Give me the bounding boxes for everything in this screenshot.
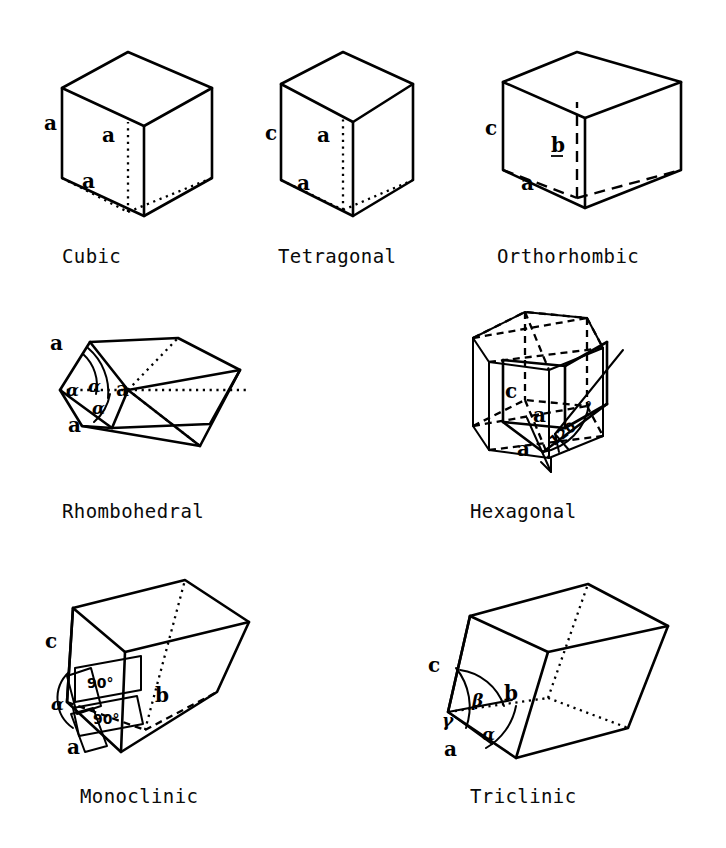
monoclinic-diagram: c b a 90° 90° α — [45, 540, 295, 765]
orthorhombic-label-c: c — [485, 116, 497, 140]
triclinic-diagram: c b a β γ α — [420, 540, 685, 765]
orthorhombic-label-a: a — [521, 171, 534, 195]
cubic-front-top-edge — [62, 88, 212, 126]
caption-monoclinic: Monoclinic — [80, 785, 198, 807]
rhombohedral-label-a-right: a — [116, 377, 129, 401]
crystal-cell-hexagonal: c a a 120 ° — [455, 300, 655, 500]
monoclinic-label-a: a — [67, 735, 80, 759]
triclinic-label-c: c — [428, 653, 440, 677]
tetragonal-diagram: c a a — [265, 30, 455, 230]
monoclinic-label-90-lower: 90° — [93, 711, 119, 727]
tetragonal-label-c: c — [265, 121, 277, 145]
rhombohedral-front-diagonal — [128, 390, 200, 446]
crystal-cell-rhombohedral: a a a α α α — [50, 328, 270, 488]
triclinic-front-top-edge — [470, 616, 668, 652]
rhombohedral-outline — [60, 338, 240, 428]
rhombohedral-label-alpha-2: α — [88, 376, 101, 396]
crystal-systems-figure: a a a Cubic c a a Tetragonal c — [0, 0, 726, 848]
crystal-cell-triclinic: c b a β γ α — [420, 540, 685, 765]
hexagonal-top-diagonal — [473, 318, 587, 338]
rhombohedral-label-alpha-1: α — [66, 380, 79, 400]
triclinic-label-a: a — [444, 737, 457, 761]
cubic-diagram: a a a — [40, 30, 250, 230]
orthorhombic-diagram: c b a — [485, 30, 710, 230]
triclinic-label-gamma: γ — [442, 710, 454, 730]
rhombohedral-right-edge — [128, 370, 240, 390]
crystal-cell-tetragonal: c a a — [265, 30, 455, 230]
hexagonal-label-degree-symbol: ° — [585, 399, 592, 415]
triclinic-left-vertical-edge — [448, 616, 470, 712]
rhombohedral-label-alpha-3: α — [92, 398, 105, 418]
triclinic-hidden-edge — [548, 584, 588, 698]
triclinic-front-vertical-edge — [516, 652, 548, 758]
crystal-cell-monoclinic: c b a 90° 90° α — [45, 540, 295, 765]
monoclinic-hidden-edge — [145, 580, 185, 730]
caption-hexagonal: Hexagonal — [470, 500, 577, 522]
hexagonal-label-c: c — [505, 379, 517, 403]
caption-triclinic: Triclinic — [470, 785, 577, 807]
hexagonal-top-outline — [473, 312, 603, 348]
tetragonal-front-top-edge — [281, 84, 413, 122]
caption-orthorhombic: Orthorhombic — [497, 245, 639, 267]
tetragonal-label-a-depth: a — [317, 123, 330, 147]
caption-tetragonal: Tetragonal — [278, 245, 396, 267]
triclinic-label-beta: β — [471, 690, 483, 710]
monoclinic-front-vertical-edge — [121, 652, 125, 752]
cubic-hidden-edge — [128, 178, 212, 212]
caption-cubic: Cubic — [62, 245, 121, 267]
monoclinic-label-90-upper: 90° — [87, 675, 113, 691]
crystal-cell-orthorhombic: c b a — [485, 30, 710, 230]
monoclinic-label-alpha: α — [51, 694, 64, 714]
rhombohedral-label-a-bottom: a — [68, 413, 81, 437]
rhombohedral-diagram: a a a α α α — [50, 328, 270, 488]
triclinic-hidden-edge — [548, 698, 628, 728]
hexagonal-label-a-1: a — [533, 403, 546, 427]
cubic-label-a-width: a — [82, 169, 95, 193]
hexagonal-diagram: c a a 120 ° — [455, 300, 655, 500]
caption-rhombohedral: Rhombohedral — [62, 500, 204, 522]
orthorhombic-hidden-edge — [577, 170, 681, 198]
tetragonal-label-a-width: a — [297, 171, 310, 195]
monoclinic-label-b: b — [155, 683, 169, 707]
monoclinic-label-c: c — [45, 629, 57, 653]
cubic-label-a-depth: a — [102, 123, 115, 147]
crystal-cell-cubic: a a a — [40, 30, 250, 230]
monoclinic-front-top-edge — [73, 608, 249, 652]
triclinic-label-b: b — [504, 681, 518, 705]
orthorhombic-label-b: b — [551, 133, 565, 157]
cubic-label-a-vertical: a — [44, 111, 57, 135]
triclinic-label-alpha: α — [482, 724, 495, 744]
hexagonal-label-a-2: a — [517, 437, 530, 461]
orthorhombic-front-top-edge — [503, 82, 681, 118]
rhombohedral-label-a-top: a — [50, 331, 63, 355]
